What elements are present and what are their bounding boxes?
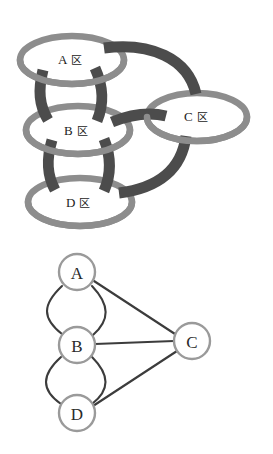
ribbon-rings-back (20, 36, 247, 226)
edge-b-d-left (46, 357, 61, 404)
band-b-c (112, 114, 166, 122)
ribbon-glyph-c: 区 (197, 111, 208, 124)
figure-root: A 区 B 区 C 区 D 区 (0, 0, 273, 454)
abstract-graph-svg: A B C D (0, 240, 273, 454)
edge-a-b-left (47, 286, 62, 334)
ribbon-label-c: C (184, 109, 193, 124)
graph-node-a[interactable]: A (59, 254, 95, 290)
ribbon-label-a: A (58, 52, 68, 67)
band-a-b-right (95, 68, 102, 121)
ribbon-label-b: B (64, 123, 73, 138)
ribbon-diagram-svg: A 区 B 区 C 区 D 区 (0, 0, 273, 240)
edge-a-b-right (92, 286, 106, 335)
node-b-label: B (71, 337, 82, 356)
graph-node-d[interactable]: D (59, 395, 95, 431)
edge-b-c (95, 341, 174, 344)
graph-node-c[interactable]: C (174, 323, 210, 359)
ribbon-label-d: D (66, 195, 76, 210)
node-c-label: C (186, 333, 197, 352)
edge-b-d-right (92, 357, 106, 404)
ribbon-diagram-panel: A 区 B 区 C 区 D 区 (0, 0, 273, 240)
node-d-label: D (71, 405, 83, 424)
ribbon-glyph-d: 区 (79, 197, 90, 210)
ribbon-glyph-b: 区 (77, 125, 88, 138)
band-d-c (119, 136, 186, 193)
node-a-label: A (71, 264, 84, 283)
abstract-graph-panel: A B C D (0, 240, 273, 454)
graph-node-b[interactable]: B (59, 327, 95, 363)
ribbon-glyph-a: 区 (71, 54, 82, 67)
